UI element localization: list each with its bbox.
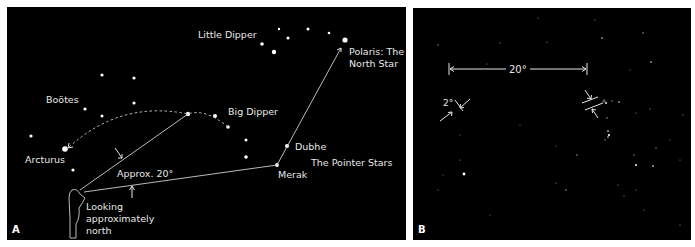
bright-stars bbox=[463, 102, 637, 175]
little-dipper-stars bbox=[260, 28, 347, 55]
angle-arrow-lower bbox=[130, 186, 135, 198]
label-merak: Merak bbox=[278, 169, 308, 180]
polaris-star bbox=[342, 37, 347, 42]
label-pointer-stars: The Pointer Stars bbox=[310, 157, 393, 168]
big-dipper-stars bbox=[186, 112, 289, 167]
label-polaris-line1: Polaris: The bbox=[349, 46, 404, 57]
label-polaris-line2: North Star bbox=[349, 58, 398, 69]
small-degree-circle bbox=[603, 100, 605, 102]
label-2-degrees: 2° bbox=[443, 98, 453, 108]
label-looking-line3: north bbox=[86, 225, 112, 236]
panel-b-sky-svg: 20° 2° B bbox=[413, 8, 691, 240]
faint-star-field bbox=[437, 17, 683, 225]
label-little-dipper: Little Dipper bbox=[198, 29, 257, 40]
label-20-degrees: 20° bbox=[509, 64, 527, 75]
pointer-arrow-upper bbox=[585, 90, 592, 99]
two-deg-arrow-upper bbox=[460, 99, 470, 108]
arcturus-star bbox=[62, 146, 68, 152]
label-looking-line2: approximately bbox=[86, 213, 155, 224]
label-approx-20: Approx. 20° bbox=[117, 168, 173, 179]
panel-b-sky-photo: 20° 2° B bbox=[413, 8, 691, 240]
observer-figure bbox=[69, 190, 85, 239]
panel-a-big-dipper-diagram: Little Dipper Polaris: The North Star Bo… bbox=[7, 7, 406, 240]
pointer-arrow-lower bbox=[592, 109, 598, 118]
panel-b-letter: B bbox=[418, 224, 426, 235]
panel-a-letter: A bbox=[12, 224, 20, 235]
two-deg-bar bbox=[455, 100, 463, 111]
label-arcturus: Arcturus bbox=[25, 154, 65, 165]
pointer-bar-lower bbox=[585, 103, 603, 110]
label-bootes: Boötes bbox=[46, 94, 79, 105]
label-looking-line1: Looking bbox=[86, 201, 123, 212]
label-big-dipper: Big Dipper bbox=[228, 106, 278, 117]
angle-arrow-upper bbox=[115, 148, 122, 158]
label-dubhe: Dubhe bbox=[295, 141, 326, 152]
sightline-merak bbox=[84, 165, 277, 192]
panel-a-sky-svg: Little Dipper Polaris: The North Star Bo… bbox=[7, 7, 406, 240]
two-deg-arrow-lower bbox=[440, 112, 452, 121]
